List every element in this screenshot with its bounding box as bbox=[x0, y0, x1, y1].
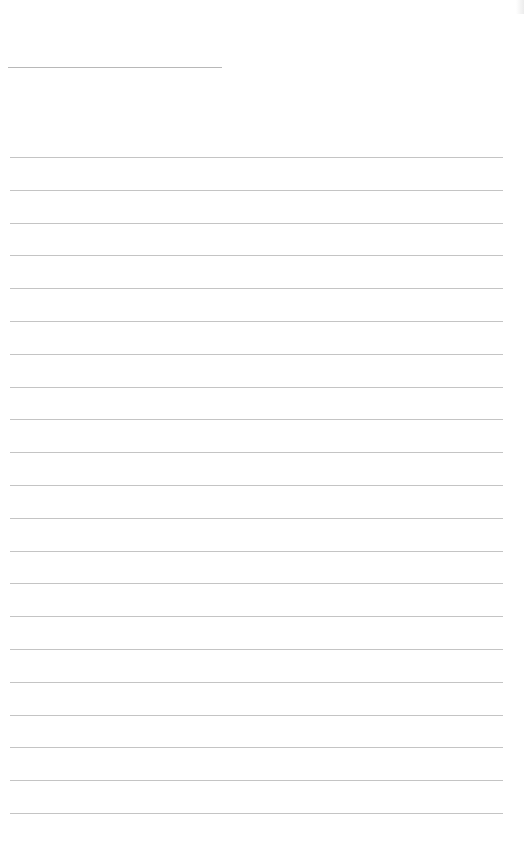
writing-line bbox=[10, 223, 503, 224]
writing-line bbox=[10, 419, 503, 420]
page-corner-shadow bbox=[516, 0, 524, 14]
writing-line bbox=[10, 715, 503, 716]
writing-line bbox=[10, 354, 503, 355]
writing-line bbox=[10, 157, 503, 158]
writing-line bbox=[10, 288, 503, 289]
lined-paper-page bbox=[0, 0, 524, 866]
writing-line bbox=[10, 190, 503, 191]
writing-line bbox=[10, 387, 503, 388]
writing-line bbox=[10, 551, 503, 552]
writing-line bbox=[10, 616, 503, 617]
writing-line bbox=[10, 583, 503, 584]
writing-line bbox=[10, 255, 503, 256]
writing-line bbox=[10, 452, 503, 453]
writing-line bbox=[10, 518, 503, 519]
writing-line bbox=[10, 321, 503, 322]
writing-line bbox=[10, 780, 503, 781]
writing-line bbox=[10, 747, 503, 748]
writing-line bbox=[10, 682, 503, 683]
writing-line bbox=[10, 813, 503, 814]
writing-line bbox=[10, 485, 503, 486]
title-line bbox=[8, 67, 222, 68]
writing-line bbox=[10, 649, 503, 650]
